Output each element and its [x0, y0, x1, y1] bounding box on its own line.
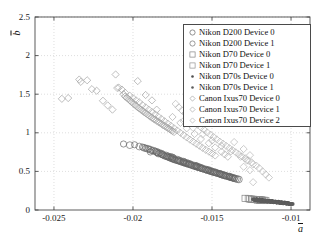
legend-item-label: Nikon D70s Device 1 [199, 82, 274, 93]
legend-item[interactable]: Nikon D200 Device 0 [184, 27, 310, 38]
y-tick-label: 1 [2, 128, 30, 137]
legend-item-label: Canon Ixus70 Device 2 [199, 115, 280, 126]
x-tick-label: -0.02 [118, 214, 148, 223]
x-tick-label: -0.01 [276, 214, 306, 223]
y-tick-label: 0.5 [2, 167, 30, 176]
legend-item-label: Canon Ixus70 Device 0 [199, 93, 280, 104]
legend-item-label: Canon Ixus70 Device 1 [199, 104, 280, 115]
legend-item[interactable]: Nikon D200 Device 1 [184, 38, 310, 49]
legend-circle-icon [187, 27, 198, 38]
legend-item-label: Nikon D70 Device 0 [199, 49, 270, 60]
scatter-plot-figure: 0 0.5 1 1.5 2 2.5 -0.025 -0.02 -0.015 -0… [0, 0, 328, 242]
legend-item-label: Nikon D200 Device 1 [199, 38, 275, 49]
legend-item[interactable]: Nikon D70s Device 1 [184, 82, 310, 93]
y-tick-label: 0 [2, 206, 30, 215]
legend-dot-icon [187, 82, 198, 93]
x-tick-label: -0.015 [197, 214, 227, 223]
y-tick-label: 2 [2, 51, 30, 60]
legend-item[interactable]: Nikon D70 Device 1 [184, 60, 310, 71]
y-tick-label: 2.5 [2, 13, 30, 22]
legend-item-label: Nikon D70s Device 0 [199, 71, 274, 82]
data-series-5 [251, 197, 295, 206]
legend-diamond-icon [187, 104, 198, 115]
legend-diamond-icon [187, 93, 198, 104]
legend-box: Nikon D200 Device 0Nikon D200 Device 1Ni… [183, 24, 311, 127]
legend-square-icon [187, 60, 198, 71]
legend-item-label: Nikon D70 Device 1 [199, 60, 270, 71]
y-axis-title: b [12, 31, 22, 36]
legend-square-icon [187, 49, 198, 60]
legend-item-label: Nikon D200 Device 0 [199, 27, 275, 38]
x-tick-label: -0.025 [39, 214, 69, 223]
legend-item[interactable]: Nikon D70 Device 0 [184, 49, 310, 60]
legend-item[interactable]: Canon Ixus70 Device 1 [184, 104, 310, 115]
legend-item[interactable]: Canon Ixus70 Device 2 [184, 115, 310, 126]
legend-diamond-icon [187, 115, 198, 126]
legend-circle-icon [187, 38, 198, 49]
y-tick-label: 1.5 [2, 90, 30, 99]
x-axis-title: a [298, 224, 303, 234]
legend-dot-icon [187, 71, 198, 82]
data-series-6 [58, 71, 177, 136]
legend-item[interactable]: Nikon D70s Device 0 [184, 71, 310, 82]
legend-item[interactable]: Canon Ixus70 Device 0 [184, 93, 310, 104]
